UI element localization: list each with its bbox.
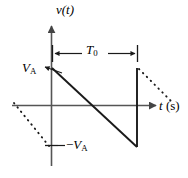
x-axis-label: t (s) — [159, 99, 180, 112]
period-subscript: 0 — [93, 48, 97, 58]
amplitude-negative-subscript: A — [81, 143, 87, 153]
ramp-previous-dotted — [14, 103, 49, 146]
amplitude-positive-subscript: A — [30, 66, 36, 76]
amplitude-positive-symbol: V — [22, 60, 30, 75]
amplitude-positive-pointer — [45, 67, 62, 73]
period-label: T0 — [86, 43, 98, 58]
x-axis-label-variable: t — [159, 98, 163, 113]
amplitude-negative-label: −VA — [66, 138, 88, 153]
waveform-svg — [0, 0, 188, 178]
y-axis-label: v(t) — [56, 3, 74, 16]
ramp-main — [52, 68, 137, 147]
waveform-figure: v(t) t (s) VA −VA T0 — [0, 0, 188, 178]
amplitude-positive-label: VA — [22, 61, 36, 76]
